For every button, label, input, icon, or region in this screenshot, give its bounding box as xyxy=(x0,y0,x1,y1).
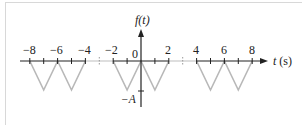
pulse-right xyxy=(197,61,253,90)
tick-label-8: 8 xyxy=(249,43,255,57)
tick-label-6: 6 xyxy=(221,43,227,57)
tick-label-0: 0 xyxy=(132,47,138,61)
chart-svg: f(t) t (s) −A −8 −6 −4 −2 0 2 4 6 8 xyxy=(0,0,302,125)
x-axis-label: t (s) xyxy=(273,54,292,68)
tick-label-m4: −4 xyxy=(78,43,91,57)
tick-label-m2: −2 xyxy=(105,43,118,57)
pulse-left xyxy=(30,61,86,90)
y-axis xyxy=(138,29,144,107)
y-axis-arrow-icon xyxy=(138,29,144,37)
tick-label-m8: −8 xyxy=(23,43,36,57)
tick-label-m6: −6 xyxy=(50,43,63,57)
tick-label-2: 2 xyxy=(165,43,171,57)
y-axis-label: f(t) xyxy=(135,13,150,27)
figure-frame: f(t) t (s) −A −8 −6 −4 −2 0 2 4 6 8 xyxy=(0,0,302,125)
tick-label-4: 4 xyxy=(193,43,199,57)
neg-A-label: −A xyxy=(121,93,137,105)
x-axis-arrow-icon xyxy=(260,58,268,64)
